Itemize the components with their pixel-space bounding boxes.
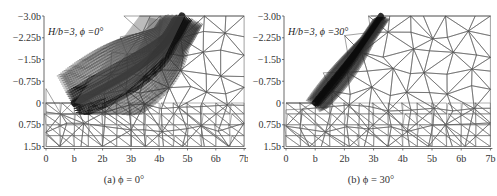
x-tick-label: 0 [284, 153, 289, 164]
y-tick-label: 0 [36, 98, 41, 109]
y-tick-label: 0.75b [19, 119, 42, 130]
y-tick-label: −1.5b [258, 54, 281, 65]
caption-b: (b) ϕ = 30° [247, 174, 495, 185]
y-tick-label: −1.5b [18, 54, 41, 65]
y-tick-label: 1.5b [24, 141, 42, 152]
y-tick-label: 0 [276, 98, 281, 109]
x-tick-label: 4b [154, 153, 164, 164]
y-tick-label: −0.75b [253, 76, 281, 87]
caption-a: (a) ϕ = 0° [0, 174, 248, 185]
mesh-plot-a: −3.0b−2.25b−1.5b−0.75b00.75b1.5b0b2b3b4b… [0, 0, 248, 196]
y-tick-label: 0.75b [259, 119, 282, 130]
x-tick-label: 5b [183, 153, 193, 164]
x-tick-label: b [313, 153, 318, 164]
y-tick-label: −2.25b [13, 32, 41, 43]
annotation-label: H/b=3, ϕ =30° [287, 26, 348, 37]
y-tick-label: 1.5b [264, 141, 282, 152]
y-tick-label: −3.0b [258, 11, 281, 22]
x-tick-label: 5b [427, 153, 437, 164]
panel-b: −3.0b−2.25b−1.5b−0.75b00.75b1.5b0b2b3b4b… [247, 0, 495, 196]
annotation-label: H/b=3, ϕ =0° [47, 26, 103, 37]
y-tick-label: −0.75b [13, 76, 41, 87]
y-tick-label: −3.0b [18, 11, 41, 22]
x-tick-label: 3b [369, 153, 379, 164]
x-tick-label: 7b [485, 153, 495, 164]
x-tick-label: 2b [339, 153, 349, 164]
x-tick-label: 2b [98, 153, 108, 164]
mesh-plot-b: −3.0b−2.25b−1.5b−0.75b00.75b1.5b0b2b3b4b… [247, 0, 497, 196]
panel-a: −3.0b−2.25b−1.5b−0.75b00.75b1.5b0b2b3b4b… [0, 0, 248, 196]
x-tick-label: 0 [44, 153, 49, 164]
x-tick-label: b [72, 153, 77, 164]
x-tick-label: 6b [211, 153, 221, 164]
y-tick-label: −2.25b [253, 32, 281, 43]
x-tick-label: 3b [126, 153, 136, 164]
x-tick-label: 4b [398, 153, 408, 164]
x-tick-label: 6b [456, 153, 466, 164]
